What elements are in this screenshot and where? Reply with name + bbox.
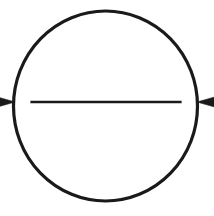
circle-diameter-diagram [0,0,214,216]
figure-background [0,0,214,216]
figure-canvas: Circle with double-headed diameter arrow [0,0,214,216]
